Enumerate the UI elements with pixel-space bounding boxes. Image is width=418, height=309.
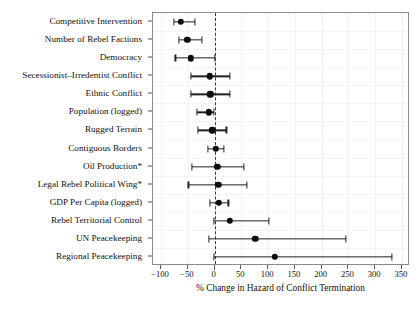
- x-axis-tick-label: −100: [151, 269, 169, 279]
- grid-line-vertical: [322, 13, 323, 264]
- grid-line-horizontal: [153, 140, 408, 141]
- confidence-interval-cap: [197, 127, 198, 134]
- confidence-interval-cap: [190, 91, 191, 98]
- y-axis-tick-label: Regional Peacekeeping: [56, 251, 142, 261]
- estimate-point-marker: [252, 236, 258, 242]
- x-axis-tick-label: 0: [211, 269, 215, 279]
- x-axis-tick-label: 300: [368, 269, 381, 279]
- x-axis-tick-label: 250: [341, 269, 354, 279]
- x-axis-tick-mark: [187, 265, 188, 269]
- grid-line-vertical: [161, 13, 162, 264]
- x-axis-tick-mark: [401, 265, 402, 269]
- estimate-point-marker: [184, 37, 190, 43]
- x-axis-tick-mark: [294, 265, 295, 269]
- y-axis-tick-label: Number of Rebel Factions: [45, 34, 142, 44]
- confidence-interval-cap: [210, 199, 211, 206]
- x-axis: % Change in Hazard of Conflict Terminati…: [152, 265, 409, 309]
- confidence-interval-cap: [229, 91, 230, 98]
- confidence-interval-cap: [213, 109, 214, 116]
- confidence-interval-cap: [214, 55, 215, 62]
- y-axis-tick-label: Rugged Terrain: [85, 124, 142, 134]
- confidence-interval-cap: [207, 145, 208, 152]
- y-axis-tick-label: Competitive Intervention: [49, 16, 142, 26]
- y-axis-tick-label: Legal Rebel Political Wing*: [38, 179, 142, 189]
- grid-line-vertical: [188, 13, 189, 264]
- confidence-interval-cap: [391, 253, 392, 260]
- estimate-point-marker: [227, 218, 233, 224]
- y-axis-tick-label: Population (logged): [69, 106, 142, 116]
- y-axis-tick-label: Rebel Territorial Control: [51, 215, 142, 225]
- x-axis-tick-mark: [347, 265, 348, 269]
- grid-line-horizontal: [153, 194, 408, 195]
- confidence-interval-cap: [179, 37, 180, 44]
- x-axis-tick-label: 350: [395, 269, 408, 279]
- grid-line-horizontal: [153, 103, 408, 104]
- y-axis-tick-label: Democracy: [100, 52, 142, 62]
- confidence-interval-cap: [268, 217, 269, 224]
- grid-line-vertical: [402, 13, 403, 264]
- x-axis-tick-label: 150: [287, 269, 300, 279]
- grid-line-horizontal: [153, 176, 408, 177]
- forest-plot-figure: Competitive InterventionNumber of Rebel …: [0, 0, 418, 309]
- y-axis-tick-label: Contiguous Borders: [68, 143, 142, 153]
- plot-inner: [153, 13, 408, 264]
- grid-line-horizontal: [153, 67, 408, 68]
- grid-line-horizontal: [153, 230, 408, 231]
- grid-line-vertical: [268, 13, 269, 264]
- confidence-interval-cap: [213, 217, 214, 224]
- confidence-interval-cap: [226, 127, 227, 134]
- confidence-interval-bar: [175, 58, 214, 59]
- estimate-point-marker: [216, 200, 222, 206]
- x-axis-tick-label: 100: [261, 269, 274, 279]
- x-axis-tick-label: 200: [314, 269, 327, 279]
- x-axis-tick-mark: [160, 265, 161, 269]
- estimate-point-marker: [212, 145, 218, 151]
- grid-line-horizontal: [153, 212, 408, 213]
- confidence-interval-cap: [209, 235, 210, 242]
- x-axis-tick-mark: [374, 265, 375, 269]
- grid-line-horizontal: [153, 31, 408, 32]
- confidence-interval-cap: [247, 181, 248, 188]
- x-axis-tick-label: 50: [236, 269, 245, 279]
- y-axis-tick-label: Secessionist–Irredentist Conflict: [22, 70, 142, 80]
- estimate-point-marker: [178, 19, 184, 25]
- grid-line-horizontal: [153, 121, 408, 122]
- confidence-interval-cap: [201, 37, 202, 44]
- confidence-interval-cap: [175, 55, 176, 62]
- x-axis-title: % Change in Hazard of Conflict Terminati…: [152, 283, 409, 293]
- y-axis-category-labels: Competitive InterventionNumber of Rebel …: [0, 0, 148, 265]
- grid-line-horizontal: [153, 248, 408, 249]
- estimate-point-marker: [215, 181, 221, 187]
- confidence-interval-bar: [209, 238, 346, 239]
- confidence-interval-bar: [214, 220, 269, 221]
- x-axis-tick-label: −50: [180, 269, 193, 279]
- y-axis-tick-label: GDP Per Capita (logged): [50, 197, 142, 207]
- grid-line-horizontal: [153, 158, 408, 159]
- confidence-interval-cap: [196, 109, 197, 116]
- y-axis-tick-label: Ethnic Conflict: [86, 88, 142, 98]
- confidence-interval-cap: [191, 163, 192, 170]
- confidence-interval-cap: [223, 145, 224, 152]
- estimate-point-marker: [272, 254, 278, 260]
- estimate-point-marker: [207, 73, 213, 79]
- confidence-interval-cap: [243, 163, 244, 170]
- confidence-interval-cap: [229, 73, 230, 80]
- estimate-point-marker: [188, 55, 194, 61]
- x-axis-tick-mark: [321, 265, 322, 269]
- grid-line-vertical: [375, 13, 376, 264]
- confidence-interval-cap: [213, 253, 214, 260]
- estimate-point-marker: [214, 163, 220, 169]
- confidence-interval-cap: [194, 19, 195, 26]
- confidence-interval-cap: [188, 181, 189, 188]
- plot-area: [152, 12, 409, 265]
- estimate-point-marker: [205, 109, 211, 115]
- confidence-interval-cap: [228, 199, 229, 206]
- x-axis-tick-mark: [240, 265, 241, 269]
- grid-line-vertical: [241, 13, 242, 264]
- confidence-interval-bar: [214, 256, 392, 257]
- confidence-interval-cap: [173, 19, 174, 26]
- grid-line-vertical: [295, 13, 296, 264]
- confidence-interval-bar: [179, 39, 201, 40]
- confidence-interval-cap: [190, 73, 191, 80]
- zero-reference-line: [215, 13, 216, 264]
